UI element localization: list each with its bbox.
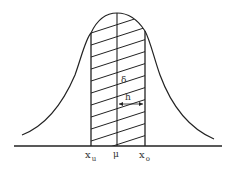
mean-label: μ: [113, 150, 119, 159]
sigma-label: δ: [121, 76, 126, 85]
half-width-label: h: [125, 93, 131, 102]
upper-bound-subscript: o: [146, 155, 150, 163]
lower-bound-label: xu: [85, 150, 96, 160]
upper-bound-label: xo: [139, 150, 150, 160]
arrow-left-head-icon: [119, 102, 123, 106]
lower-bound-symbol: x: [85, 149, 91, 160]
upper-bound-symbol: x: [139, 149, 145, 160]
lower-bound-subscript: u: [92, 155, 97, 163]
arrow-right-head-icon: [139, 102, 143, 106]
diagram-canvas: δ h xu μ xo: [0, 0, 236, 176]
